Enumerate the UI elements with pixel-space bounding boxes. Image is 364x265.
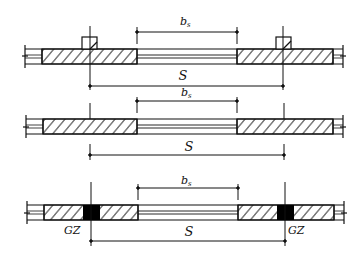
label-bs: bs xyxy=(181,174,192,188)
dimension-s xyxy=(89,154,286,157)
dimension-s xyxy=(90,240,287,243)
label-s: S xyxy=(185,139,194,154)
label-bs: bs xyxy=(180,15,191,29)
dimension-bs xyxy=(136,27,239,44)
label-s: S xyxy=(179,68,188,83)
wall-opening-diagram: bs xyxy=(0,0,364,265)
wall-section xyxy=(24,201,347,224)
wall-section xyxy=(22,45,346,68)
panel-gz: bs xyxy=(24,174,347,246)
panel-plain: bs xyxy=(23,86,346,160)
wall-section xyxy=(23,115,346,138)
label-gz-right: GZ xyxy=(288,224,305,237)
label-gz-left: GZ xyxy=(64,224,81,237)
label-s: S xyxy=(185,224,194,239)
label-bs: bs xyxy=(181,86,192,100)
panel-pilaster: bs xyxy=(22,15,346,90)
dimension-bs xyxy=(136,97,239,113)
